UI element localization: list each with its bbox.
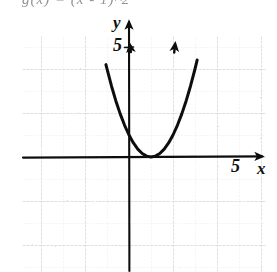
y-axis-tick-label-5: 5 [113,36,122,54]
coordinate-plane-svg [0,0,277,272]
x-axis-label: x [257,160,266,177]
parabola-left-arrowhead [130,46,131,53]
x-axis-tick-label-5: 5 [231,157,240,175]
y-axis-label: y [113,14,121,31]
x-axis-line [23,156,262,157]
graph-figure: g(x) = (x - 1)^2 [0,0,277,272]
parabola-right-arrowhead [174,45,175,53]
cropped-problem-text: g(x) = (x - 1)^2 [22,0,130,8]
y-axis-tick-5 [125,47,134,48]
